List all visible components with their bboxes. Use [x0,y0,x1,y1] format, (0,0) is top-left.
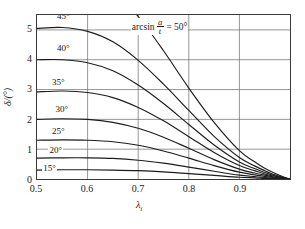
curve-label-35deg: 35° [51,78,66,87]
y-tick-1: 1 [18,145,32,155]
y-tick-4: 4 [18,54,32,64]
annotation-function: arcsin [132,22,155,32]
curve-label-15deg: 15° [42,164,57,173]
annotation-arcsin: arcsin a t = 50° [131,18,188,35]
y-tick-3: 3 [18,84,32,94]
y-tick-2: 2 [18,115,32,125]
annotation-value: 50° [174,22,187,32]
y-axis-label-text: δ/(°) [2,88,13,106]
curve-50deg [37,15,290,179]
y-axis-label: δ/(°) [2,60,13,106]
annotation-numerator: a [157,18,163,26]
curve-20deg [37,158,290,179]
curve-label-40deg: 40° [56,44,71,53]
figure-root: δ/(°) λi 012345 0.50.60.70.80.9 45°40°35… [0,0,305,229]
y-tick-5: 5 [18,24,32,34]
curve-label-45deg: 45° [56,14,71,21]
annotation-fraction: a t [157,18,164,35]
x-tick-0.6: 0.6 [74,184,100,194]
curve-label-25deg: 25° [51,127,66,136]
x-axis-label-subscript: i [140,205,142,213]
x-tick-0.9: 0.9 [227,184,253,194]
plot-area: 45°40°35°30°25°20°15° arcsin a t = 50° [36,14,291,180]
annotation-equals: = [167,22,172,32]
x-axis-label: λi [136,199,142,215]
x-tick-0.5: 0.5 [23,184,49,194]
annotation-denominator: t [158,27,162,35]
curve-series-group [37,15,290,179]
x-tick-0.7: 0.7 [125,184,151,194]
x-tick-0.8: 0.8 [176,184,202,194]
curve-label-30deg: 30° [55,105,70,114]
curve-label-20deg: 20° [48,146,63,155]
